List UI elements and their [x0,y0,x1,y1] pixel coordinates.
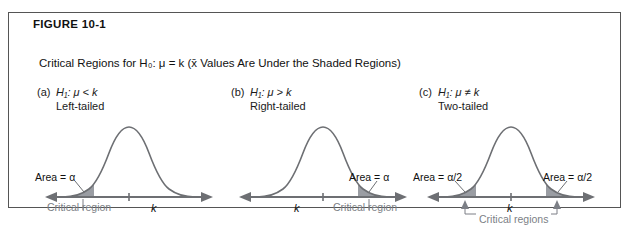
panel-a-letter: (a) [37,85,56,99]
normal-curve [445,127,577,197]
panel-a-k-tick-label: k [151,202,157,214]
axis-arrow-right [583,192,595,202]
panel-a-hypothesis: H₁: μ < k [56,86,98,98]
shaded-left-tail [449,184,476,197]
bracket-arrow-right [553,200,561,209]
panel-c-area-label-left: Area = α/2 [413,171,462,183]
axis-arrow-left [239,192,251,202]
bracket-arrow-left [461,200,469,209]
axis-arrow-right [201,192,213,202]
panel-c-hypothesis: H₁: μ ≠ k [438,86,479,98]
normal-curve [257,127,389,197]
panel-b-heading: (b)H₁: μ > k Right-tailed [231,85,306,113]
shaded-right-tail [358,184,385,197]
panel-a-critical-region-label: Critical region [47,201,111,213]
panel-c-heading: (c)H₁: μ ≠ k Two-tailed [419,85,488,113]
panel-b-letter: (b) [231,85,250,99]
axis-arrow-left [427,192,439,202]
panel-c-critical-regions-label: Critical regions [476,213,551,224]
shaded-left-tail [67,184,94,197]
figure-box: FIGURE 10-1 Critical Regions for H₀: μ =… [8,12,621,208]
panel-c-area-label-right: Area = α/2 [543,171,592,183]
panel-c-graph [419,111,609,224]
panel-left-tailed: (a)H₁: μ < k Left-tailed Area = [37,85,217,213]
panel-c-letter: (c) [419,85,438,99]
panel-a-heading: (a)H₁: μ < k Left-tailed [37,85,104,113]
figure-number-label: FIGURE 10-1 [27,17,113,32]
panel-b-hypothesis: H₁: μ > k [250,86,292,98]
normal-curve [63,127,195,197]
figure-caption: Critical Regions for H₀: μ = k (x̄ Value… [39,57,401,69]
panel-b-area-label: Area = α [349,171,389,183]
area-leader-line [75,181,84,192]
panel-a-area-label: Area = α [35,171,75,183]
panel-two-tailed: (c)H₁: μ ≠ k Two-tailed [419,85,609,213]
panel-b-critical-region-label: Critical region [333,201,397,213]
panel-b-k-tick-label: k [294,202,300,214]
panel-right-tailed: (b)H₁: μ > k Right-tailed Area = α k Cri… [231,85,411,213]
